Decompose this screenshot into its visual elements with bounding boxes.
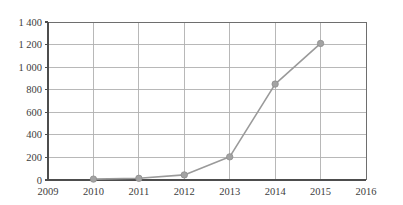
y-tick-label: 600: [26, 107, 42, 118]
x-tick-label: 2012: [174, 186, 195, 197]
line-chart: 02004006008001 0001 2001 400 20092010201…: [0, 0, 403, 205]
data-point-marker: [227, 154, 233, 160]
data-point-marker: [317, 40, 323, 46]
y-tick-label: 1 400: [18, 17, 42, 28]
x-tick-label: 2015: [310, 186, 331, 197]
x-tick-label: 2011: [129, 186, 150, 197]
y-tick-label: 1 200: [18, 39, 42, 50]
data-point-marker: [272, 81, 278, 87]
y-tick-label: 1 000: [18, 62, 42, 73]
data-point-marker: [181, 172, 187, 178]
y-tick-label: 0: [37, 175, 42, 186]
data-point-marker: [90, 176, 96, 182]
y-tick-label: 800: [26, 84, 42, 95]
x-tick-label: 2013: [219, 186, 240, 197]
data-point-marker: [136, 175, 142, 181]
x-tick-label: 2014: [265, 186, 287, 197]
y-tick-label: 200: [26, 152, 42, 163]
x-tick-label: 2010: [83, 186, 104, 197]
chart-background: [0, 0, 403, 205]
x-tick-label: 2009: [38, 186, 59, 197]
x-tick-label: 2016: [356, 186, 377, 197]
y-tick-label: 400: [26, 129, 42, 140]
chart-canvas: 02004006008001 0001 2001 400 20092010201…: [0, 0, 403, 205]
